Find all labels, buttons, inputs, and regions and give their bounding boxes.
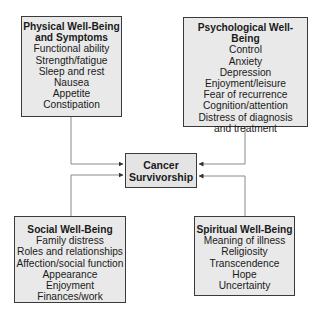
psychological-item: Depression xyxy=(184,67,307,78)
psychological-item: Cognition/attention xyxy=(184,100,307,111)
psychological-well-being-box: Psychological Well-Being Control Anxiety… xyxy=(183,17,308,127)
spiritual-well-being-box: Spiritual Well-Being Meaning of illness … xyxy=(194,216,295,296)
psychological-item: Fear of recurrence xyxy=(184,89,307,100)
spiritual-item: Transcendence xyxy=(195,258,294,269)
psychological-item: Enjoyment/leisure xyxy=(184,78,307,89)
social-item: Appearance xyxy=(15,269,125,280)
physical-well-being-box: Physical Well-Being and Symptoms Functio… xyxy=(21,16,122,117)
social-item: Finances/work xyxy=(15,291,125,302)
social-item: Roles and relationships xyxy=(15,246,125,257)
spiritual-item: Hope xyxy=(195,269,294,280)
social-item: Affection/social function xyxy=(15,258,125,269)
social-to-center-arrow xyxy=(71,175,123,216)
psychological-item: Control xyxy=(184,44,307,55)
spiritual-item: Uncertainty xyxy=(195,280,294,291)
social-well-being-box: Social Well-Being Family distress Roles … xyxy=(14,216,126,303)
center-line2: Survivorship xyxy=(126,171,196,183)
spiritual-title: Spiritual Well-Being xyxy=(195,224,294,235)
psychological-item: Anxiety xyxy=(184,56,307,67)
psychological-item: Distress of diagnosis xyxy=(184,112,307,123)
spiritual-to-center-arrow xyxy=(199,176,245,216)
physical-title-line2: and Symptoms xyxy=(22,32,121,43)
psychological-item: and treatment xyxy=(184,123,307,134)
physical-item: Strength/fatigue xyxy=(22,55,121,66)
physical-item: Sleep and rest xyxy=(22,66,121,77)
physical-item: Appetite xyxy=(22,88,121,99)
center-line1: Cancer xyxy=(126,159,196,171)
physical-title-line1: Physical Well-Being xyxy=(22,21,121,32)
physical-item: Nausea xyxy=(22,77,121,88)
physical-item: Functional ability xyxy=(22,43,121,54)
social-title: Social Well-Being xyxy=(15,224,125,235)
physical-item: Constipation xyxy=(22,99,121,110)
social-item: Enjoyment xyxy=(15,280,125,291)
physical-to-center-arrow xyxy=(71,117,123,164)
spiritual-item: Meaning of illness xyxy=(195,235,294,246)
psychological-title: Psychological Well-Being xyxy=(184,22,307,44)
social-item: Family distress xyxy=(15,235,125,246)
spiritual-item: Religiosity xyxy=(195,246,294,257)
cancer-survivorship-box: Cancer Survivorship xyxy=(125,153,197,188)
